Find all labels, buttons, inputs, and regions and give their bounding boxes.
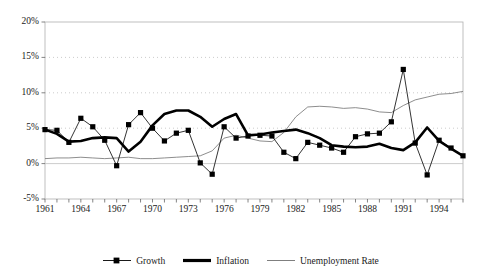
series-growth-marker — [365, 131, 370, 136]
x-axis-label: 1994 — [419, 204, 459, 214]
series-growth-marker — [269, 133, 274, 138]
y-axis-label: 20% — [0, 16, 39, 26]
series-growth-marker — [102, 138, 107, 143]
thick-line-swatch — [182, 255, 212, 266]
series-growth-marker — [305, 140, 310, 145]
series-growth-marker — [222, 124, 227, 129]
series-growth-marker — [114, 163, 119, 168]
series-growth-marker — [329, 145, 334, 150]
x-axis-label: 1964 — [61, 204, 101, 214]
series-growth-marker — [78, 116, 83, 121]
legend-item-label: Inflation — [216, 256, 249, 266]
series-growth-marker — [353, 134, 358, 139]
plot-frame — [45, 22, 463, 199]
series-growth-marker — [401, 67, 406, 72]
series-growth-marker — [257, 133, 262, 138]
series-growth-marker — [233, 136, 238, 141]
series-growth-marker — [317, 143, 322, 148]
legend-item-growth[interactable]: Growth — [102, 255, 165, 266]
series-growth-marker — [413, 140, 418, 145]
y-axis-label: 0% — [0, 158, 39, 168]
series-growth-marker — [281, 150, 286, 155]
legend-item-label: Growth — [136, 256, 165, 266]
series-growth-marker — [186, 128, 191, 133]
series-growth-marker — [162, 138, 167, 143]
y-axis-label: 10% — [0, 87, 39, 97]
series-growth-marker — [437, 138, 442, 143]
series-growth-marker — [210, 172, 215, 177]
chart-legend: GrowthInflationUnemployment Rate — [0, 255, 481, 266]
series-growth-marker — [377, 131, 382, 136]
series-growth-marker — [42, 127, 47, 132]
series-growth-marker — [460, 153, 465, 158]
series-growth-marker — [448, 145, 453, 150]
series-growth-marker — [54, 128, 59, 133]
marker-line-swatch — [102, 255, 132, 266]
thin-line-swatch — [266, 255, 296, 266]
y-axis-label: -5% — [0, 193, 39, 203]
x-axis-label: 1970 — [132, 204, 172, 214]
x-axis-label: 1967 — [97, 204, 137, 214]
series-growth-marker — [138, 110, 143, 115]
series-growth-marker — [293, 156, 298, 161]
series-growth-marker — [66, 140, 71, 145]
chart-plot-area — [0, 0, 481, 273]
series-growth-marker — [150, 126, 155, 131]
series-growth-marker — [425, 172, 430, 177]
x-axis-label: 1973 — [168, 204, 208, 214]
y-axis-label: 5% — [0, 122, 39, 132]
series-growth-marker — [174, 131, 179, 136]
x-axis-label: 1991 — [383, 204, 423, 214]
x-axis-label: 1976 — [204, 204, 244, 214]
series-growth-marker — [126, 122, 131, 127]
x-axis-label: 1985 — [312, 204, 352, 214]
x-axis-label: 1988 — [347, 204, 387, 214]
economic-indicators-chart: GrowthInflationUnemployment Rate 20%15%1… — [0, 0, 481, 273]
legend-item-label: Unemployment Rate — [300, 256, 379, 266]
x-axis-label: 1979 — [240, 204, 280, 214]
series-growth-marker — [198, 160, 203, 165]
x-axis-label: 1982 — [276, 204, 316, 214]
x-axis-label: 1961 — [25, 204, 65, 214]
series-growth-marker — [341, 150, 346, 155]
series-growth-marker — [389, 119, 394, 124]
legend-item-inflation[interactable]: Inflation — [182, 255, 249, 266]
series-growth-marker — [245, 133, 250, 138]
y-axis-label: 15% — [0, 51, 39, 61]
series-growth-marker — [90, 124, 95, 129]
legend-item-unemployment-rate[interactable]: Unemployment Rate — [266, 255, 379, 266]
